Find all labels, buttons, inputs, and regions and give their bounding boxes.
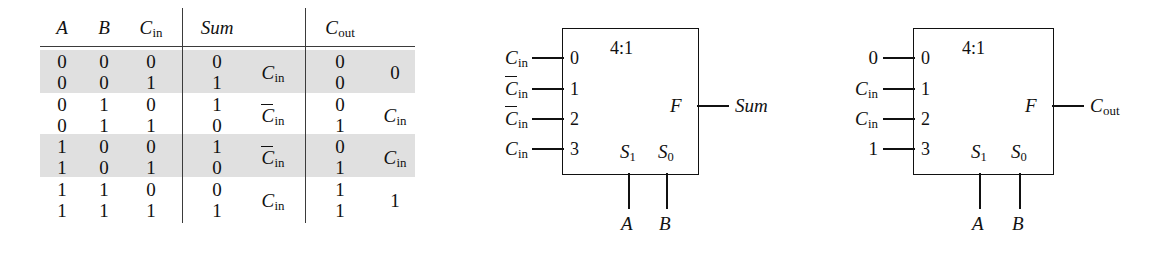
mux-cout-title: 4:1 (962, 38, 985, 59)
cell-a: 0 (45, 116, 79, 135)
mux-sum-pin-0: 0 (570, 48, 579, 69)
mux-cout-input-wire-3 (883, 148, 915, 150)
mux-sum-title: 4:1 (610, 38, 633, 59)
cout-expression-group-00: 0 (367, 63, 423, 82)
mux-sum-input-label-1: Cin (472, 78, 528, 102)
mux-sum-output-wire (697, 105, 729, 107)
column-header-cout: Cout (314, 18, 366, 40)
cell-sum: 1 (190, 137, 244, 156)
mux-cout-diagram: 4:1 0 Cin Cin 1 0 1 2 3 F Cout S1 S0 A B (840, 0, 1140, 240)
column-header-sum: Sum (190, 18, 244, 37)
cell-cout: 1 (314, 201, 366, 220)
cell-cout: 1 (314, 158, 366, 177)
mux-sum-input-label-2: Cin (472, 108, 528, 132)
mux-sum-select-s0: S0 (658, 141, 674, 165)
mux-sum-select-source-b: B (659, 214, 671, 233)
cell-b: 0 (87, 52, 121, 71)
mux-sum-input-label-0: Cin (472, 47, 528, 71)
cell-cin: 1 (128, 201, 174, 220)
cell-cin: 0 (128, 52, 174, 71)
mux-cout-select-s0: S0 (1011, 141, 1027, 165)
mux-cout-input-wire-2 (883, 118, 915, 120)
cell-b: 1 (87, 180, 121, 199)
cell-cin: 1 (128, 73, 174, 92)
mux-sum-input-wire-1 (532, 88, 564, 90)
cell-b: 0 (87, 137, 121, 156)
mux-sum-output-label: Sum (735, 95, 768, 117)
mux-sum-input-wire-2 (532, 118, 564, 120)
mux-cout-pin-1: 1 (921, 79, 930, 100)
mux-cout-pin-3: 3 (921, 139, 930, 160)
cell-cin: 1 (128, 158, 174, 177)
mux-cout-input-label-3: 1 (822, 138, 878, 160)
sum-expression-group-00: Cin (245, 63, 301, 85)
mux-cout-select-s1: S1 (971, 141, 987, 165)
sum-expression-group-11: Cin (245, 191, 301, 213)
cell-b: 1 (87, 116, 121, 135)
cell-cin: 0 (128, 180, 174, 199)
cell-sum: 0 (190, 52, 244, 71)
table-divider-cout (305, 8, 306, 223)
mux-sum-select-s1: S1 (620, 141, 636, 165)
mux-cout-output-wire (1052, 105, 1084, 107)
cell-cout: 0 (314, 73, 366, 92)
mux-sum-input-wire-3 (532, 148, 564, 150)
cell-b: 0 (87, 158, 121, 177)
cell-sum: 0 (190, 180, 244, 199)
cell-b: 0 (87, 73, 121, 92)
truth-table: A B Cin Sum Cout 0 0 0 0 0 0 0 1 1 0 0 1… (40, 0, 430, 235)
sum-expression-group-01: Cin (245, 106, 301, 128)
mux-cout-pin-2: 2 (921, 109, 930, 130)
cell-cout: 0 (314, 52, 366, 71)
cell-a: 1 (45, 180, 79, 199)
figure-canvas: A B Cin Sum Cout 0 0 0 0 0 0 0 1 1 0 0 1… (0, 0, 1150, 257)
cell-cin: 0 (128, 137, 174, 156)
mux-cout-pin-0: 0 (921, 48, 930, 69)
mux-cout-select-wire-s0 (1019, 173, 1021, 209)
cell-cout: 1 (314, 180, 366, 199)
mux-cout-input-wire-0 (883, 57, 915, 59)
mux-cout-output-pin: F (1025, 95, 1037, 117)
cell-sum: 1 (190, 95, 244, 114)
mux-sum-pin-2: 2 (570, 109, 579, 130)
mux-cout-input-label-2: Cin (822, 108, 878, 132)
cell-a: 0 (45, 95, 79, 114)
cell-cin: 0 (128, 95, 174, 114)
cell-a: 1 (45, 137, 79, 156)
column-header-cin: Cin (128, 18, 174, 40)
cell-a: 0 (45, 52, 79, 71)
mux-sum-output-pin: F (670, 95, 682, 117)
mux-cout-select-source-b: B (1012, 214, 1024, 233)
mux-cout-input-label-1: Cin (822, 78, 878, 102)
mux-sum-select-wire-s1 (628, 173, 630, 209)
mux-sum-select-wire-s0 (666, 173, 668, 209)
cell-b: 1 (87, 95, 121, 114)
mux-sum-pin-1: 1 (570, 79, 579, 100)
sum-expression-group-10: Cin (245, 148, 301, 170)
column-header-b: B (87, 18, 121, 37)
mux-cout-input-wire-1 (883, 88, 915, 90)
cell-sum: 0 (190, 116, 244, 135)
cell-sum: 0 (190, 158, 244, 177)
cout-expression-group-10: Cin (367, 148, 423, 170)
cell-sum: 1 (190, 201, 244, 220)
cell-a: 1 (45, 158, 79, 177)
cout-expression-group-11: 1 (367, 191, 423, 210)
cell-sum: 1 (190, 73, 244, 92)
column-header-a: A (45, 18, 79, 37)
cell-cout: 0 (314, 95, 366, 114)
mux-sum-pin-3: 3 (570, 139, 579, 160)
mux-sum-input-label-3: Cin (472, 138, 528, 162)
mux-sum-input-wire-0 (532, 57, 564, 59)
cout-expression-group-01: Cin (367, 106, 423, 128)
cell-a: 1 (45, 201, 79, 220)
cell-a: 0 (45, 73, 79, 92)
mux-cout-select-wire-s1 (979, 173, 981, 209)
mux-cout-input-label-0: 0 (822, 47, 878, 69)
mux-sum-select-source-a: A (621, 214, 633, 233)
cell-cin: 1 (128, 116, 174, 135)
cell-b: 1 (87, 201, 121, 220)
mux-cout-select-source-a: A (972, 214, 984, 233)
mux-cout-output-label: Cout (1090, 95, 1120, 119)
cell-cout: 0 (314, 137, 366, 156)
